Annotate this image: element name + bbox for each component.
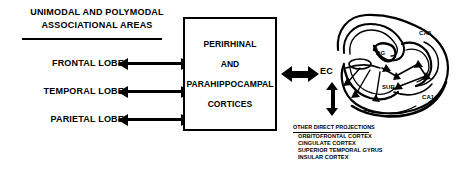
bidirectional-arrow-icon-frontal [127, 62, 182, 65]
bidirectional-arrow-icon-parietal [127, 118, 182, 121]
lobe-row-parietal: PARIETAL LOBE [12, 112, 182, 126]
perirhinal-parahippocampal-box: PERIRHINAL AND PARAHIPPOCAMPAL CORTICES [183, 17, 277, 131]
label-ca1: CA1 [422, 94, 434, 100]
arrow-head-right [308, 66, 319, 82]
hippocampal-formation-illustration: CA3 DG SUB CA1 [330, 6, 456, 126]
box-line-4: CORTICES [208, 99, 253, 110]
box-line-3: PARAHIPPOCAMPAL [186, 79, 273, 90]
bidirectional-arrow-icon-temporal [127, 90, 182, 93]
label-ca3: CA3 [419, 30, 431, 36]
bidirectional-thick-arrow-icon [281, 66, 319, 83]
lobe-row-temporal: TEMPORAL LOBE [12, 84, 182, 98]
lobe-label-temporal: TEMPORAL LOBE [44, 84, 124, 98]
projection-item-cingulate: CINGULATE CORTEX [298, 140, 385, 147]
label-sub: SUB [382, 84, 395, 90]
header-line-1: UNIMODAL AND POLYMODAL [12, 6, 182, 19]
arrow-shaft [290, 71, 310, 78]
box-line-2: AND [221, 59, 240, 70]
lobe-label-parietal: PARIETAL LOBE [50, 112, 124, 126]
associational-areas-header: UNIMODAL AND POLYMODAL ASSOCIATIONAL ARE… [12, 6, 182, 32]
lobe-label-frontal: FRONTAL LOBE [52, 56, 124, 70]
label-dg: DG [376, 50, 385, 56]
projection-item-orbitofrontal: ORBITOFRONTAL CORTEX [298, 133, 385, 140]
header-line-2: ASSOCIATIONAL AREAS [12, 19, 182, 32]
box-line-1: PERIRHINAL [204, 39, 257, 50]
projection-item-superior-temporal: SUPERIOR TEMPORAL GYRUS [298, 147, 385, 154]
projection-item-insular: INSULAR CORTEX [298, 154, 385, 161]
arrow-head-left [281, 66, 292, 82]
hippocampus-svg [330, 6, 456, 126]
header-underline [22, 38, 162, 40]
lobe-row-frontal: FRONTAL LOBE [12, 56, 182, 70]
other-direct-projections-block: OTHER DIRECT PROJECTIONS ORBITOFRONTAL C… [293, 124, 385, 161]
